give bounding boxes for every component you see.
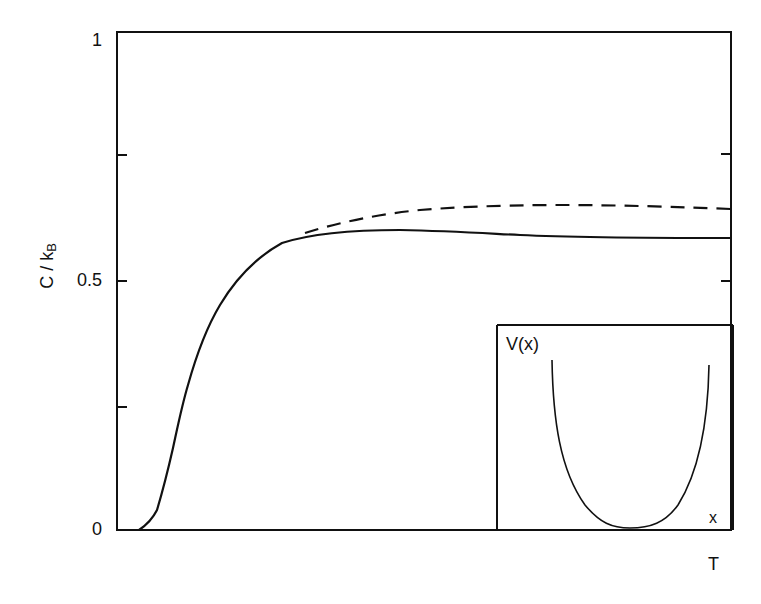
y-axis-label-subscript: B [44,243,59,252]
x-axis-label: T [708,554,719,575]
solid-curve [139,230,731,530]
y-axis-label-main: C / k [37,252,57,289]
inset-x-label: x [709,509,717,527]
y-tick-label-0: 0 [92,519,102,540]
plot-frame [117,32,731,530]
inset-y-label: V(x) [506,334,539,355]
y-axis-label: C / kB [37,226,59,306]
dashed-curve [305,205,731,233]
y-ticks-right [721,154,731,281]
inset-potential-curve [552,360,709,528]
chart-canvas [0,0,761,604]
y-tick-label-1: 1 [92,30,102,51]
y-tick-label-0-5: 0.5 [77,270,102,291]
y-ticks-left [117,155,127,407]
inset-potential [497,325,733,530]
